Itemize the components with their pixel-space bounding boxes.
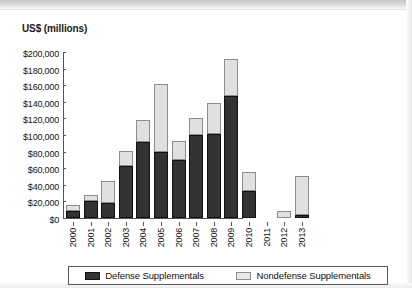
x-axis-tick: 2013 xyxy=(295,222,309,262)
bar-segment-defense[interactable] xyxy=(295,215,309,218)
y-axis-tick-label: $100,000 xyxy=(23,132,63,142)
y-axis-tick-mark xyxy=(63,52,66,53)
y-axis-title: US$ (millions) xyxy=(22,23,87,34)
y-axis-tick: $140,000 xyxy=(23,93,63,111)
chart-figure: US$ (millions) $200,000$180,000$160,000$… xyxy=(0,10,406,283)
bar-segment-nondefense[interactable] xyxy=(84,195,98,202)
legend-label: Nondefense Supplementals xyxy=(256,270,370,281)
legend-label: Defense Supplementals xyxy=(105,270,204,281)
bar-segment-defense[interactable] xyxy=(189,135,203,218)
y-axis-tick: $40,000 xyxy=(28,176,63,194)
x-axis-tick-mark xyxy=(73,222,74,226)
y-axis-tick-label: $140,000 xyxy=(23,99,63,109)
x-axis-tick-mark xyxy=(302,222,303,226)
x-axis-tick: 2002 xyxy=(101,222,115,262)
bar-segment-nondefense[interactable] xyxy=(277,211,291,218)
y-axis-tick: $160,000 xyxy=(23,76,63,94)
y-axis-tick-mark xyxy=(63,168,66,169)
x-axis-tick-label: 2003 xyxy=(121,228,131,247)
x-axis-tick-label: 2004 xyxy=(138,228,148,247)
x-axis-tick-mark xyxy=(249,222,250,226)
y-axis-tick: $60,000 xyxy=(28,159,63,177)
legend-entry[interactable]: Defense Supplementals xyxy=(85,270,204,281)
y-axis-tick-mark xyxy=(63,118,66,119)
bar-segment-defense[interactable] xyxy=(84,201,98,218)
y-axis-tick-mark xyxy=(63,102,66,103)
scan-edge-top xyxy=(0,0,412,10)
bar-segment-defense[interactable] xyxy=(224,96,238,218)
chart-legend: Defense SupplementalsNondefense Suppleme… xyxy=(68,266,388,285)
x-axis-tick: 2010 xyxy=(242,222,256,262)
bar-segment-nondefense[interactable] xyxy=(172,141,186,160)
y-axis-tick-label: $0 xyxy=(49,215,63,225)
bar-segment-nondefense[interactable] xyxy=(295,176,309,215)
y-axis-tick: $20,000 xyxy=(28,192,63,210)
x-axis-tick-label: 2011 xyxy=(262,228,272,247)
y-axis-tick-label: $40,000 xyxy=(28,182,63,192)
bar-segment-defense[interactable] xyxy=(172,160,186,218)
x-axis-tick: 2004 xyxy=(136,222,150,262)
x-axis-tick-label: 2007 xyxy=(191,228,201,247)
bar-segment-nondefense[interactable] xyxy=(242,172,256,191)
y-axis-tick-mark xyxy=(63,185,66,186)
x-axis-tick: 2003 xyxy=(119,222,133,262)
y-axis-tick: $80,000 xyxy=(28,143,63,161)
x-axis-tick-mark xyxy=(161,222,162,226)
x-axis-tick: 2011 xyxy=(260,222,274,262)
y-axis-tick: $120,000 xyxy=(23,109,63,127)
bar-segment-defense[interactable] xyxy=(101,203,115,218)
bar-segment-nondefense[interactable] xyxy=(136,120,150,142)
x-axis-tick: 2012 xyxy=(277,222,291,262)
y-axis-tick-label: $20,000 xyxy=(28,198,63,208)
bar-segment-nondefense[interactable] xyxy=(154,84,168,152)
bar-segment-defense[interactable] xyxy=(207,134,221,218)
y-axis-tick-mark xyxy=(63,85,66,86)
bar-segment-defense[interactable] xyxy=(119,166,133,218)
y-axis-tick-label: $180,000 xyxy=(23,66,63,76)
x-axis-tick: 2001 xyxy=(84,222,98,262)
bar-segment-nondefense[interactable] xyxy=(224,59,238,96)
plot-area: $200,000$180,000$160,000$140,000$120,000… xyxy=(63,52,238,218)
x-axis-tick-label: 2010 xyxy=(244,228,254,247)
bar-segment-defense[interactable] xyxy=(66,211,80,218)
x-axis-tick-label: 2002 xyxy=(103,228,113,247)
bar-segment-nondefense[interactable] xyxy=(119,151,133,166)
x-axis-tick-mark xyxy=(126,222,127,226)
x-axis-tick-mark xyxy=(179,222,180,226)
x-axis-tick-label: 2000 xyxy=(68,228,78,247)
bar-segment-nondefense[interactable] xyxy=(207,103,221,135)
y-axis-tick-mark xyxy=(63,152,66,153)
x-axis-tick-label: 2009 xyxy=(226,228,236,247)
x-axis-line xyxy=(63,218,243,219)
legend-entry[interactable]: Nondefense Supplementals xyxy=(236,270,370,281)
x-axis-tick-mark xyxy=(284,222,285,226)
y-axis-tick: $100,000 xyxy=(23,126,63,144)
bar-segment-defense[interactable] xyxy=(242,191,256,218)
y-axis-tick-label: $160,000 xyxy=(23,82,63,92)
y-axis-tick: $0 xyxy=(49,209,63,227)
bar-segment-defense[interactable] xyxy=(154,152,168,218)
y-axis-tick-mark xyxy=(63,69,66,70)
x-axis-tick-mark xyxy=(143,222,144,226)
defense-swatch xyxy=(85,272,100,280)
y-axis-tick-label: $200,000 xyxy=(23,49,63,59)
y-axis-tick-label: $80,000 xyxy=(28,149,63,159)
x-axis-tick-label: 2001 xyxy=(86,228,96,247)
x-axis-tick-mark xyxy=(214,222,215,226)
bar-segment-nondefense[interactable] xyxy=(101,181,115,203)
y-axis-tick-label: $60,000 xyxy=(28,165,63,175)
y-axis-tick-mark xyxy=(63,201,66,202)
x-axis-tick-label: 2006 xyxy=(174,228,184,247)
x-axis-tick-mark xyxy=(196,222,197,226)
x-axis-tick: 2009 xyxy=(224,222,238,262)
y-axis-tick: $180,000 xyxy=(23,60,63,78)
bar-segment-defense[interactable] xyxy=(136,142,150,218)
x-axis-tick-mark xyxy=(231,222,232,226)
x-axis-tick-label: 2012 xyxy=(279,228,289,247)
x-axis-tick-mark xyxy=(108,222,109,226)
bar-segment-nondefense[interactable] xyxy=(189,118,203,135)
x-axis-tick-mark xyxy=(267,222,268,226)
y-axis-tick-mark xyxy=(63,218,66,219)
bar-segment-nondefense[interactable] xyxy=(66,205,80,211)
y-axis-tick: $200,000 xyxy=(23,43,63,61)
